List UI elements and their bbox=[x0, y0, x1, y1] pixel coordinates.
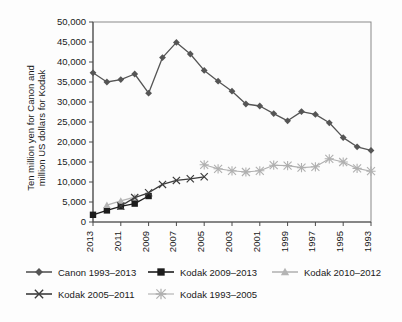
legend-label: Kodak 1993–2005 bbox=[180, 289, 257, 300]
y-tick-label: 15,000 bbox=[57, 156, 86, 167]
chart-figure: Ten million yen for Canon and million US… bbox=[0, 0, 402, 322]
data-point-asterisk bbox=[269, 161, 278, 170]
x-tick-label: 2009 bbox=[140, 231, 151, 252]
data-point-square bbox=[132, 200, 138, 206]
y-axis-title-line1: Ten million yen for Canon and bbox=[25, 65, 36, 191]
legend-label: Kodak 2005–2011 bbox=[58, 289, 134, 300]
legend-item[interactable]: Kodak 2005–2011 bbox=[26, 289, 134, 300]
y-tick-label: 25,000 bbox=[57, 116, 86, 127]
y-axis-title-line2: million US dollars for Kodak bbox=[36, 69, 47, 186]
x-tick-label: 2003 bbox=[223, 231, 234, 252]
data-point-asterisk bbox=[255, 166, 264, 175]
data-point-asterisk bbox=[283, 161, 292, 170]
y-tick-label: 45,000 bbox=[57, 36, 86, 47]
legend-item[interactable]: Kodak 1993–2005 bbox=[148, 289, 257, 300]
x-tick-label: 2001 bbox=[251, 231, 262, 252]
data-point-asterisk bbox=[339, 157, 348, 166]
data-point-square bbox=[104, 207, 110, 213]
y-tick-label: 30,000 bbox=[57, 96, 86, 107]
data-point-asterisk bbox=[156, 289, 167, 300]
x-tick-label: 2013 bbox=[84, 231, 95, 252]
data-point-asterisk bbox=[241, 167, 250, 176]
legend-label: Kodak 2009–2013 bbox=[180, 267, 257, 278]
data-point-asterisk bbox=[311, 162, 320, 171]
x-tick-label: 1995 bbox=[334, 231, 345, 252]
data-point-asterisk bbox=[353, 164, 362, 173]
legend-label: Canon 1993–2013 bbox=[58, 267, 136, 278]
data-point-square bbox=[90, 212, 96, 218]
y-tick-label: 50,000 bbox=[57, 16, 86, 27]
x-tick-label: 2011 bbox=[112, 231, 123, 251]
data-point-asterisk bbox=[325, 154, 334, 163]
y-axis-title: Ten million yen for Canon and million US… bbox=[25, 65, 47, 191]
data-point-asterisk bbox=[227, 166, 236, 175]
x-tick-label: 1999 bbox=[279, 231, 290, 252]
data-point-square bbox=[157, 268, 164, 275]
data-point-asterisk bbox=[297, 163, 306, 172]
y-tick-label: 40,000 bbox=[57, 56, 86, 67]
y-tick-label: 5,000 bbox=[62, 196, 86, 207]
x-tick-label: 2005 bbox=[195, 231, 206, 252]
data-point-asterisk bbox=[214, 164, 223, 173]
x-tick-label: 1997 bbox=[306, 231, 317, 252]
data-point-asterisk bbox=[366, 167, 375, 176]
x-tick-label: 1993 bbox=[362, 231, 373, 252]
y-tick-label: 10,000 bbox=[57, 176, 86, 187]
x-tick-label: 2007 bbox=[167, 231, 178, 252]
y-tick-label: 35,000 bbox=[57, 76, 86, 87]
legend-label: Kodak 2010–2012 bbox=[304, 267, 381, 278]
y-tick-label: 0 bbox=[81, 216, 86, 227]
data-point-asterisk bbox=[200, 160, 209, 169]
y-tick-label: 20,000 bbox=[57, 136, 86, 147]
